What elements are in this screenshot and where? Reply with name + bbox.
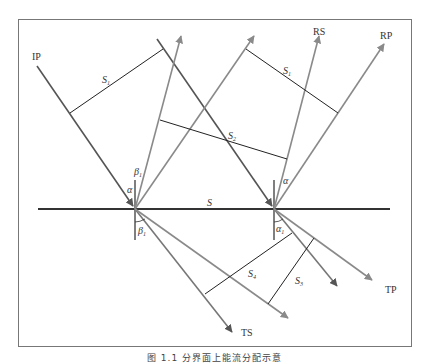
label-s4: S4 bbox=[248, 268, 256, 280]
reflected-s-right bbox=[274, 36, 319, 209]
label-s3: S3 bbox=[295, 275, 303, 287]
label-alpha-left: α bbox=[127, 184, 133, 195]
transmitted-p-left bbox=[135, 209, 288, 318]
label-alpha1-lower: α1 bbox=[276, 223, 284, 235]
reflected-p-left bbox=[135, 36, 254, 209]
label-incident-p: IP bbox=[32, 51, 41, 62]
reflected-s-left bbox=[135, 36, 181, 209]
reflected-p-right bbox=[274, 44, 384, 209]
figure-frame bbox=[19, 20, 412, 347]
wavefront-s1-right bbox=[246, 49, 338, 113]
wavefront-s2 bbox=[160, 120, 287, 159]
label-interface: S bbox=[207, 197, 212, 208]
wavefront-s3 bbox=[268, 238, 314, 304]
label-beta1-upper: β1 bbox=[133, 166, 142, 178]
label-s1-right: S1 bbox=[283, 65, 291, 77]
wave-partition-diagram: IP RS RP TS TP S S1 S1 S2 S3 S4 α β1 β1 … bbox=[0, 0, 429, 364]
incident-ray-left bbox=[37, 66, 133, 206]
label-beta1-lower: β1 bbox=[137, 225, 146, 237]
label-alpha-right: α bbox=[283, 175, 289, 186]
label-s1-left: S1 bbox=[102, 74, 110, 86]
label-reflected-s: RS bbox=[313, 26, 325, 37]
figure-caption: 图 1.1 分界面上能流分配示意 bbox=[0, 351, 429, 364]
label-s2: S2 bbox=[228, 130, 236, 142]
label-transmitted-s: TS bbox=[241, 327, 253, 338]
wavefront-s4 bbox=[205, 233, 292, 294]
label-reflected-p: RP bbox=[380, 30, 393, 41]
label-transmitted-p: TP bbox=[385, 284, 397, 295]
angle-arc-alpha1-lower bbox=[274, 219, 283, 222]
transmitted-s-left bbox=[135, 209, 232, 332]
wavefront-s1-left bbox=[70, 49, 163, 113]
